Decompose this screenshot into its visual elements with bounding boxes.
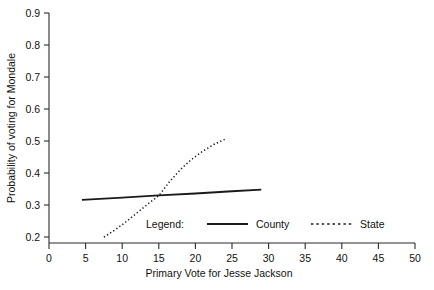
x-tick-label-10: 10 [116, 252, 128, 264]
chart-figure: 0.9 0.8 0.7 0.6 0.5 0.4 0.3 0.2 0 5 [0, 0, 434, 290]
x-tick-label-40: 40 [336, 252, 348, 264]
y-tick-label-0.8: 0.8 [25, 39, 40, 51]
series-line-county [82, 190, 261, 200]
x-tick-marks [49, 243, 415, 249]
x-tick-label-45: 45 [373, 252, 385, 264]
x-tick-label-35: 35 [299, 252, 311, 264]
y-tick-labels: 0.9 0.8 0.7 0.6 0.5 0.4 0.3 0.2 [25, 7, 40, 243]
legend-title: Legend: [146, 218, 184, 230]
y-tick-label-0.9: 0.9 [25, 7, 40, 19]
x-tick-label-5: 5 [83, 252, 89, 264]
x-tick-label-15: 15 [153, 252, 165, 264]
legend-label-state: State [360, 218, 385, 230]
x-tick-label-25: 25 [226, 252, 238, 264]
x-tick-label-50: 50 [409, 252, 421, 264]
y-tick-label-0.2: 0.2 [25, 231, 40, 243]
y-tick-label-0.6: 0.6 [25, 103, 40, 115]
y-axis-title: Probability of voting for Mondale [5, 53, 17, 203]
axes-group [49, 13, 415, 243]
y-tick-label-0.7: 0.7 [25, 71, 40, 83]
x-tick-label-30: 30 [263, 252, 275, 264]
y-tick-label-0.3: 0.3 [25, 199, 40, 211]
x-tick-labels: 0 5 10 15 20 25 30 35 40 45 50 [46, 252, 421, 264]
y-tick-label-0.5: 0.5 [25, 135, 40, 147]
y-tick-label-0.4: 0.4 [25, 167, 40, 179]
x-axis-title: Primary Vote for Jesse Jackson [145, 267, 292, 279]
chart-legend: Legend: County State [146, 218, 385, 230]
chart-canvas: 0.9 0.8 0.7 0.6 0.5 0.4 0.3 0.2 0 5 [0, 0, 434, 290]
x-tick-label-20: 20 [190, 252, 202, 264]
y-tick-marks [44, 13, 49, 237]
legend-label-county: County [256, 218, 290, 230]
x-tick-label-0: 0 [46, 252, 52, 264]
